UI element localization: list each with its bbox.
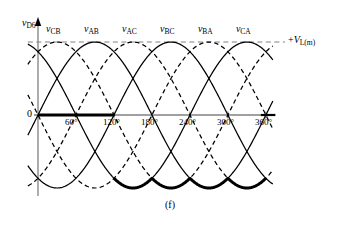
x-tick-label-60: 60°: [65, 118, 78, 127]
curve-label-ac: vAC: [122, 24, 137, 34]
curve-label-sub: BC: [164, 27, 174, 36]
y-axis-label: vD6: [22, 18, 36, 28]
curve-label-sub: BA: [202, 27, 212, 36]
x-tick-label-240: 240°: [179, 118, 196, 127]
y-axis-label-sub: D6: [26, 21, 35, 30]
peak-voltage-label: +VL(m): [288, 35, 315, 45]
x-tick-label-300: 300°: [217, 118, 234, 127]
curve-label-ca: vCA: [236, 24, 251, 34]
curve-label-sub: CA: [240, 27, 250, 36]
curve-label-sub: CB: [50, 27, 60, 36]
x-tick-label-360: 360°: [255, 118, 272, 127]
curve-label-sub: AC: [126, 27, 136, 36]
waveform-figure: vD6 0 +VL(m) (f) vCBvABvACvBCvBAvCA 60°1…: [0, 0, 342, 229]
figure-caption: (f): [165, 200, 175, 210]
curve-label-bc: vBC: [160, 24, 174, 34]
vd6-trace-envelope-segment: [114, 178, 266, 188]
curve-label-sub: AB: [88, 27, 98, 36]
curve-label-ab: vAB: [84, 24, 99, 34]
curve-label-cb: vCB: [46, 24, 60, 34]
peak-voltage-var: V: [294, 34, 300, 45]
x-tick-label-180: 180°: [141, 118, 158, 127]
origin-zero-label: 0: [27, 109, 32, 119]
x-tick-label-120: 120°: [103, 118, 120, 127]
curve-label-ba: vBA: [198, 24, 213, 34]
peak-voltage-sub: L(m): [300, 38, 315, 47]
